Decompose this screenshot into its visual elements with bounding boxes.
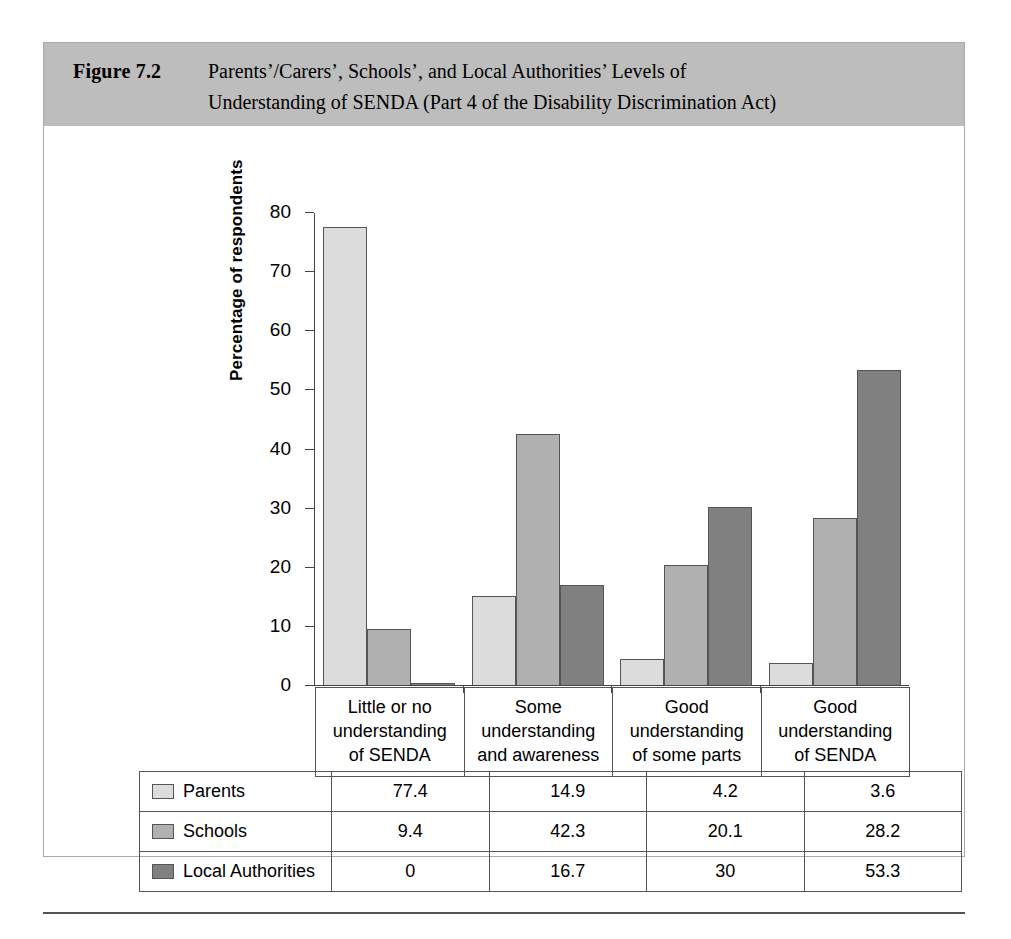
data-value-cell: 9.4 <box>332 812 490 852</box>
bar <box>620 659 664 685</box>
y-axis-tick-label: 50 <box>270 378 291 400</box>
y-axis-tick: 0 <box>305 685 314 686</box>
category-label-line: and awareness <box>477 745 599 765</box>
bar <box>560 585 604 685</box>
category-label-table: Little or nounderstandingof SENDASomeund… <box>315 687 910 777</box>
bar <box>708 507 752 685</box>
y-axis-tick: 80 <box>305 212 314 213</box>
y-axis-tick-label: 80 <box>270 201 291 223</box>
legend-swatch-icon <box>152 824 174 839</box>
category-label-line: understanding <box>481 721 595 741</box>
y-axis-tick-label: 10 <box>270 615 291 637</box>
y-axis-tick-label: 60 <box>270 319 291 341</box>
category-label-row-body: Little or nounderstandingof SENDASomeund… <box>316 688 910 777</box>
plot-area: 01020304050607080 <box>314 213 909 686</box>
category-label-row: Little or nounderstandingof SENDASomeund… <box>316 688 910 777</box>
y-axis-tick-label: 70 <box>270 260 291 282</box>
y-axis-tick: 60 <box>305 330 314 331</box>
data-value-cell: 42.3 <box>489 812 647 852</box>
category-label-line: Little or no <box>348 697 432 717</box>
data-value-cell: 14.9 <box>489 772 647 812</box>
bar <box>472 596 516 685</box>
data-value-cell: 53.3 <box>804 852 962 892</box>
category-label-line: understanding <box>630 721 744 741</box>
figure-header-band: Figure 7.2 Parents’/Carers’, Schools’, a… <box>44 43 964 126</box>
category-label-line: Good <box>813 697 857 717</box>
bar <box>813 518 857 685</box>
data-value-cell: 28.2 <box>804 812 962 852</box>
bar <box>769 663 813 685</box>
figure-title-line-1: Parents’/Carers’, Schools’, and Local Au… <box>208 56 776 87</box>
figure-container: Figure 7.2 Parents’/Carers’, Schools’, a… <box>43 42 965 857</box>
category-label-cell: Goodunderstandingof SENDA <box>761 688 910 777</box>
bar <box>516 434 560 685</box>
y-axis-tick: 50 <box>305 389 314 390</box>
bar <box>411 683 455 685</box>
y-axis-tick-label: 30 <box>270 497 291 519</box>
category-label-line: Some <box>515 697 562 717</box>
figure-title: Parents’/Carers’, Schools’, and Local Au… <box>208 56 786 118</box>
category-label-cell: Goodunderstandingof some parts <box>613 688 762 777</box>
category-label-cell: Someunderstandingand awareness <box>464 688 613 777</box>
legend-series-cell: Local Authorities <box>140 852 332 892</box>
data-value-cell: 30 <box>647 852 805 892</box>
y-axis-tick: 40 <box>305 449 314 450</box>
figure-title-line-2: Understanding of SENDA (Part 4 of the Di… <box>208 87 776 118</box>
data-value-cell: 20.1 <box>647 812 805 852</box>
category-label-line: of some parts <box>632 745 741 765</box>
y-axis-tick: 70 <box>305 271 314 272</box>
y-axis-tick: 20 <box>305 567 314 568</box>
legend-series-cell: Parents <box>140 772 332 812</box>
y-axis-tick: 10 <box>305 626 314 627</box>
category-label-line: Good <box>665 697 709 717</box>
bar-group <box>315 213 464 685</box>
table-row: Schools9.442.320.128.2 <box>140 812 962 852</box>
bar <box>323 227 367 685</box>
bar-groups <box>315 213 909 685</box>
category-label-line: of SENDA <box>349 745 431 765</box>
data-value-cell: 16.7 <box>489 852 647 892</box>
legend-series-cell: Schools <box>140 812 332 852</box>
legend-series-label: Local Authorities <box>183 861 315 881</box>
figure-number: Figure 7.2 <box>73 56 208 87</box>
chart-region: Percentage of respondents 01020304050607… <box>44 126 964 858</box>
y-axis-tick-label: 0 <box>280 674 291 696</box>
data-value-cell: 4.2 <box>647 772 805 812</box>
category-label-cell: Little or nounderstandingof SENDA <box>316 688 465 777</box>
legend-swatch-icon <box>152 864 174 879</box>
y-axis-tick-label: 40 <box>270 438 291 460</box>
bar <box>857 370 901 685</box>
category-label-line: understanding <box>778 721 892 741</box>
legend-series-label: Schools <box>183 821 247 841</box>
y-axis-tick: 30 <box>305 508 314 509</box>
bar <box>367 629 411 685</box>
y-axis-title: Percentage of respondents <box>227 81 247 381</box>
table-row: Parents77.414.94.23.6 <box>140 772 962 812</box>
table-row: Local Authorities016.73053.3 <box>140 852 962 892</box>
bar-group <box>612 213 761 685</box>
bar-group <box>761 213 910 685</box>
data-table-body: Parents77.414.94.23.6Schools9.442.320.12… <box>140 772 962 892</box>
page-divider-rule <box>43 912 965 914</box>
data-value-cell: 0 <box>332 852 490 892</box>
bar-group <box>464 213 613 685</box>
data-value-cell: 77.4 <box>332 772 490 812</box>
category-label-line: understanding <box>333 721 447 741</box>
y-axis-tick-label: 20 <box>270 556 291 578</box>
legend-swatch-icon <box>152 784 174 799</box>
data-value-cell: 3.6 <box>804 772 962 812</box>
category-label-line: of SENDA <box>794 745 876 765</box>
bar <box>664 565 708 685</box>
legend-series-label: Parents <box>183 781 245 801</box>
data-legend-table: Parents77.414.94.23.6Schools9.442.320.12… <box>139 771 962 892</box>
